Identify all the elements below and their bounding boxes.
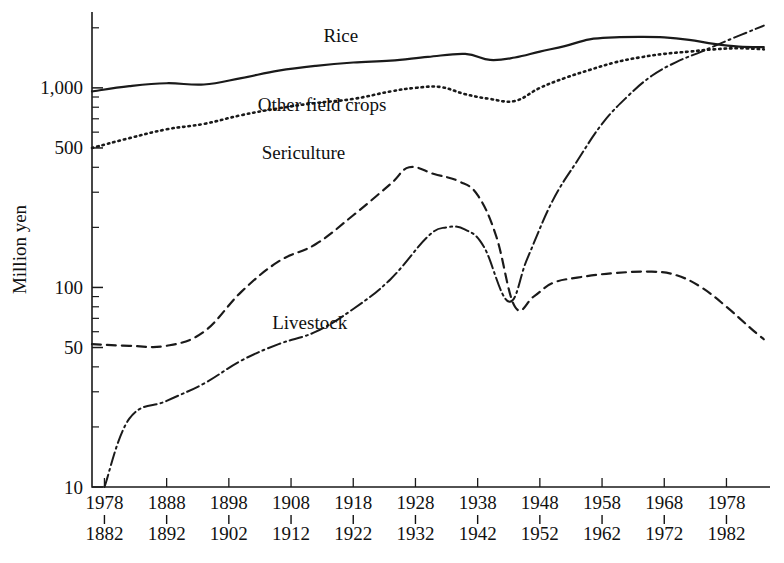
y-tick-label: 500 xyxy=(55,137,84,158)
x-tick-label-top: 1948 xyxy=(521,492,559,513)
series-label-rice: Rice xyxy=(323,25,358,46)
y-tick-label: 50 xyxy=(64,337,83,358)
x-tick-label-top: 1928 xyxy=(396,492,434,513)
x-tick-label-top: 1888 xyxy=(148,492,186,513)
series-line-sericulture xyxy=(92,167,764,347)
series-line-rice xyxy=(92,37,764,91)
x-tick-label-bottom: 1902 xyxy=(210,523,248,544)
series-line-livestock xyxy=(104,26,763,487)
x-tick-label-bottom: 1952 xyxy=(521,523,559,544)
x-tick-label-top: 1958 xyxy=(583,492,621,513)
chart-svg: 10501005001,000 Million yen 197818881898… xyxy=(0,0,784,563)
x-tick-label-top: 1938 xyxy=(459,492,497,513)
x-tick-label-bottom: 1912 xyxy=(272,523,310,544)
chart-figure: 10501005001,000 Million yen 197818881898… xyxy=(0,0,784,563)
x-axis-group: 1978188818981908191819281938194819581968… xyxy=(85,478,745,544)
y-axis-tick-labels: 10501005001,000 xyxy=(40,77,83,497)
y-tick-label: 100 xyxy=(55,277,84,298)
x-tick-label-top: 1918 xyxy=(334,492,372,513)
x-tick-label-top: 1908 xyxy=(272,492,310,513)
series-label-livestock: Livestock xyxy=(272,312,347,333)
x-tick-label-bottom: 1892 xyxy=(148,523,186,544)
y-tick-label: 1,000 xyxy=(40,77,83,98)
x-tick-label-bottom: 1972 xyxy=(645,523,683,544)
x-tick-label-top: 1898 xyxy=(210,492,248,513)
y-axis-title: Million yen xyxy=(9,204,30,294)
axis-frame xyxy=(92,12,770,487)
x-axis-tick-labels-top: 1978188818981908191819281938194819581968… xyxy=(85,492,745,513)
x-tick-label-top: 1978 xyxy=(707,492,745,513)
data-series-group xyxy=(92,26,764,487)
x-axis-ticks xyxy=(104,478,726,487)
series-line-other-field-crops xyxy=(92,48,764,148)
x-tick-label-bottom: 1882 xyxy=(85,523,123,544)
y-tick-label: 10 xyxy=(64,477,83,498)
x-tick-label-top: 1968 xyxy=(645,492,683,513)
x-tick-label-bottom: 1962 xyxy=(583,523,621,544)
series-label-sericulture: Sericulture xyxy=(262,142,345,163)
x-tick-label-bottom: 1932 xyxy=(396,523,434,544)
x-tick-label-bottom: 1922 xyxy=(334,523,372,544)
series-label-other-field-crops: Other field crops xyxy=(258,94,387,115)
x-axis-tick-labels-bottom: 1882189219021912192219321942195219621972… xyxy=(85,523,745,544)
x-tick-label-bottom: 1982 xyxy=(707,523,745,544)
x-tick-label-bottom: 1942 xyxy=(459,523,497,544)
x-tick-label-top: 1978 xyxy=(85,492,123,513)
y-axis-group: 10501005001,000 Million yen xyxy=(9,12,770,498)
